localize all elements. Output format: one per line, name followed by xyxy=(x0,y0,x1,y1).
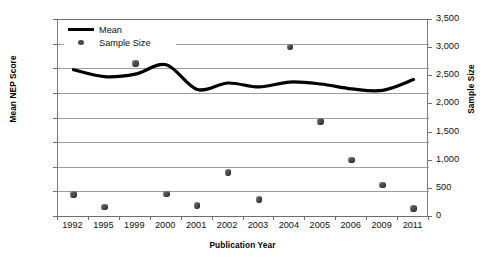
x-axis-tick-mark xyxy=(119,216,120,220)
y-axis-left-tick-mark xyxy=(53,19,57,20)
x-axis-tick-mark xyxy=(273,216,274,220)
y-axis-right-tick-mark xyxy=(428,19,432,20)
y-axis-left-tick-mark xyxy=(53,93,57,94)
y-axis-right-tick-mark xyxy=(428,75,432,76)
data-point-marker xyxy=(163,191,170,198)
legend-item-mean: Mean xyxy=(66,23,174,36)
y-axis-right-tick-mark xyxy=(428,188,432,189)
y-axis-right-tick-label: 3,000 xyxy=(436,41,485,51)
y-axis-right-tick-label: 2,500 xyxy=(436,69,485,79)
y-axis-left-tick-mark xyxy=(53,167,57,168)
y-axis-left-tick-mark xyxy=(53,68,57,69)
x-axis-tick-mark xyxy=(366,216,367,220)
dot-swatch-icon xyxy=(66,40,96,45)
data-point-marker xyxy=(410,205,417,212)
legend-label: Mean xyxy=(96,25,122,35)
legend-item-sample-size: Sample Size xyxy=(66,36,174,49)
x-axis-tick-mark xyxy=(181,216,182,220)
x-axis-tick-mark xyxy=(397,216,398,220)
y-axis-left-tick-mark xyxy=(53,191,57,192)
x-axis-tick-mark xyxy=(212,216,213,220)
mean-line-path xyxy=(73,64,413,91)
y-axis-right-tick-label: 1,500 xyxy=(436,126,485,136)
data-point-marker xyxy=(348,157,355,164)
x-axis-title: Publication Year xyxy=(57,240,428,250)
chart-figure: Mean NEP Score Sample Size Publication Y… xyxy=(0,0,485,262)
y-axis-right-tick-label: 2,000 xyxy=(436,97,485,107)
legend-label: Sample Size xyxy=(96,38,151,48)
y-axis-right-tick-label: 0 xyxy=(436,210,485,220)
y-axis-left-title: Mean NEP Score xyxy=(8,29,18,149)
data-point-marker xyxy=(317,118,324,125)
x-axis-tick-mark xyxy=(335,216,336,220)
chart-legend: Mean Sample Size xyxy=(64,22,176,51)
x-axis-tick-label: 2011 xyxy=(393,220,433,230)
y-axis-right-tick-label: 3,500 xyxy=(436,13,485,23)
data-point-marker xyxy=(101,204,108,211)
gridline xyxy=(58,216,429,217)
x-axis-tick-mark xyxy=(57,216,58,220)
x-axis-tick-mark xyxy=(243,216,244,220)
y-axis-right-tick-mark xyxy=(428,160,432,161)
y-axis-right-tick-label: 1,000 xyxy=(436,154,485,164)
x-axis-tick-mark xyxy=(304,216,305,220)
line-swatch-icon xyxy=(66,28,96,31)
x-axis-tick-mark xyxy=(150,216,151,220)
y-axis-left-tick-mark xyxy=(53,118,57,119)
x-axis-tick-mark xyxy=(428,216,429,220)
y-axis-left-tick-mark xyxy=(53,142,57,143)
y-axis-right-tick-mark xyxy=(428,132,432,133)
y-axis-right-tick-mark xyxy=(428,47,432,48)
x-axis-tick-mark xyxy=(88,216,89,220)
y-axis-left-tick-mark xyxy=(53,44,57,45)
data-point-marker xyxy=(70,191,77,198)
y-axis-right-tick-label: 500 xyxy=(436,182,485,192)
y-axis-right-tick-mark xyxy=(428,103,432,104)
data-point-marker xyxy=(379,182,386,189)
data-point-marker xyxy=(132,60,139,67)
